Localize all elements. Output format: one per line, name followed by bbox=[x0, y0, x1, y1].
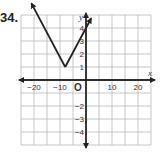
origin-label: O bbox=[74, 82, 82, 93]
x-tick-label: −10 bbox=[53, 83, 67, 92]
axes bbox=[19, 13, 155, 148]
y-tick-label: 1 bbox=[80, 63, 85, 72]
y-tick-label: 2 bbox=[80, 50, 85, 59]
y-tick-label: −2 bbox=[75, 102, 85, 111]
coordinate-graph: −20−1010204321−2−3−4xyO bbox=[0, 0, 161, 153]
y-tick-label: −4 bbox=[75, 128, 85, 137]
y-axis-label: y bbox=[78, 12, 83, 22]
x-axis-label: x bbox=[147, 68, 152, 78]
x-tick-label: 10 bbox=[108, 83, 117, 92]
x-tick-label: 20 bbox=[134, 83, 143, 92]
x-tick-label: −20 bbox=[27, 83, 41, 92]
y-tick-label: −3 bbox=[75, 115, 85, 124]
graph-right-ray bbox=[65, 18, 91, 67]
